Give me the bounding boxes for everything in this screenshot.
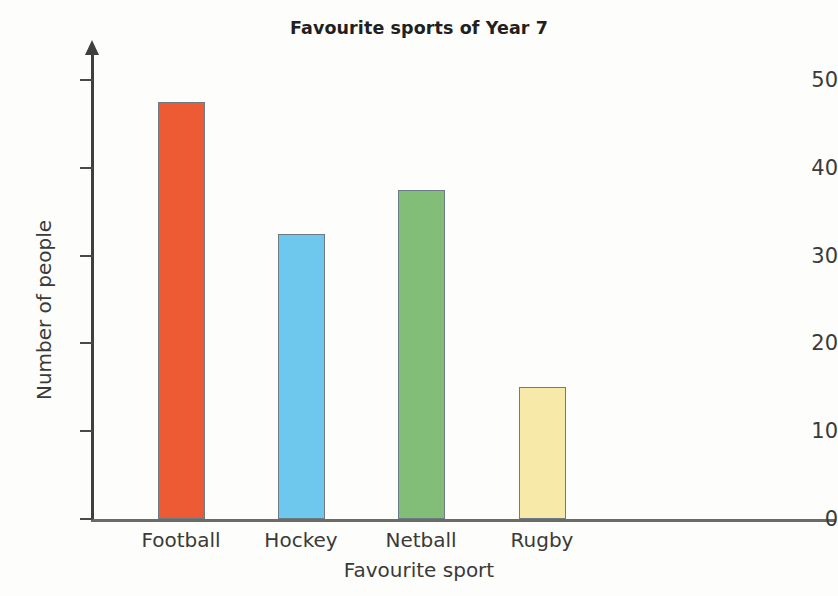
y-axis-tick-label: 50: [780, 68, 838, 92]
x-axis-line: [91, 519, 835, 522]
y-axis-line: [91, 52, 94, 520]
y-axis-tick: [80, 79, 93, 81]
y-axis-tick: [80, 430, 93, 432]
y-axis-tick-label: 30: [780, 244, 838, 268]
bar-chart: Favourite sports of Year 7 01020304050 N…: [0, 0, 838, 596]
x-axis-tick-label: Rugby: [511, 528, 574, 552]
y-axis-title: Number of people: [32, 160, 56, 460]
x-axis-title: Favourite sport: [0, 558, 838, 582]
chart-title: Favourite sports of Year 7: [0, 18, 838, 38]
bar-football: [158, 102, 205, 519]
bar-rugby: [519, 387, 566, 519]
bar-netball: [398, 190, 445, 519]
y-axis-tick: [80, 255, 93, 257]
y-axis-tick: [80, 167, 93, 169]
y-axis-tick-label: 10: [780, 419, 838, 443]
y-axis-tick-label: 20: [780, 331, 838, 355]
x-axis-tick-label: Netball: [385, 528, 456, 552]
x-axis-tick-label: Football: [141, 528, 220, 552]
x-axis-tick-label: Hockey: [264, 528, 337, 552]
y-axis-tick-label: 0: [780, 507, 838, 531]
y-axis-tick-label: 40: [780, 156, 838, 180]
bar-hockey: [278, 234, 325, 519]
y-axis-tick: [80, 342, 93, 344]
y-axis-tick: [80, 518, 93, 520]
